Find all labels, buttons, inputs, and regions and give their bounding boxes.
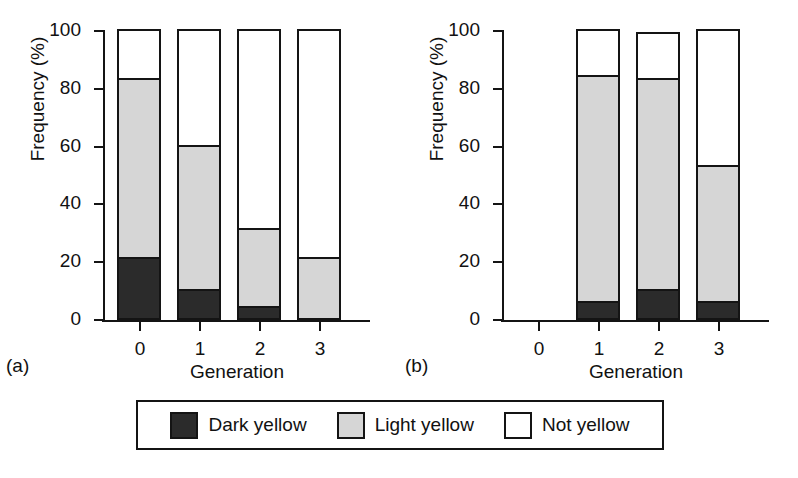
panel-a-y-tick-label: 0: [70, 308, 81, 330]
panel-b-x-tick-label: 3: [714, 338, 725, 360]
panel-a-y-tick: 20: [94, 261, 103, 263]
bar-segment-light-yellow: [297, 257, 341, 320]
panel-b-y-tick: 0: [493, 319, 502, 321]
bar-segment-light-yellow: [237, 228, 281, 308]
legend-swatch-light: [337, 412, 365, 439]
panel-b-y-axis-line: [502, 30, 504, 321]
panel-a-x-tick-label: 2: [255, 338, 266, 360]
panel-a-y-tick-label: 80: [60, 76, 81, 98]
legend-label: Light yellow: [375, 414, 474, 436]
panel-a-x-tick: [259, 322, 261, 331]
panel-b-y-tick: 20: [493, 261, 502, 263]
bar-generation-0: [117, 31, 161, 320]
panel-a-y-tick-label: 100: [49, 19, 81, 41]
panel-b-y-tick-label: 20: [459, 250, 480, 272]
bar-segment-dark-yellow: [237, 306, 281, 320]
panel-b-y-tick-label: 100: [448, 19, 480, 41]
panel-a-y-tick: 60: [94, 146, 103, 148]
legend-box: Dark yellowLight yellowNot yellow: [136, 400, 664, 450]
panel-a-x-tick: [319, 322, 321, 331]
panels-container: Frequency (%) 020406080100 0123 Generati…: [0, 0, 798, 392]
bar-generation-2: [237, 31, 281, 320]
bar-segment-dark-yellow: [177, 289, 221, 320]
legend-item: Light yellow: [337, 412, 474, 439]
panel-a-y-tick: 100: [94, 30, 103, 32]
panel-b-x-axis-label: Generation: [502, 361, 770, 383]
panel-b-y-tick-label: 60: [459, 134, 480, 156]
bar-segment-not-yellow: [576, 29, 620, 77]
panel-b-x-tick-label: 0: [534, 338, 545, 360]
bar-segment-not-yellow: [177, 29, 221, 147]
panel-a-y-tick-label: 20: [60, 250, 81, 272]
legend-item: Not yellow: [504, 412, 630, 439]
panel-b-y-tick: 40: [493, 203, 502, 205]
panel-a-tag: (a): [6, 355, 29, 377]
bar-generation-3: [696, 31, 740, 320]
bar-segment-dark-yellow: [117, 257, 161, 320]
bar-generation-3: [297, 31, 341, 320]
panel-a-y-tick-label: 60: [60, 134, 81, 156]
panel-b-x-tick: [598, 322, 600, 331]
panel-b-y-tick: 80: [493, 88, 502, 90]
panel-a-x-tick-label: 1: [195, 338, 206, 360]
bar-segment-light-yellow: [636, 78, 680, 291]
legend-label: Dark yellow: [208, 414, 306, 436]
legend-swatch-dark: [170, 412, 198, 439]
panel-b-y-tick-label: 80: [459, 76, 480, 98]
bar-segment-dark-yellow: [576, 301, 620, 320]
bar-generation-1: [576, 31, 620, 320]
bar-segment-light-yellow: [696, 165, 740, 303]
panel-a-y-tick: 0: [94, 319, 103, 321]
panel-a-x-axis-label: Generation: [103, 361, 371, 383]
panel-b-y-tick: 100: [493, 30, 502, 32]
bar-segment-not-yellow: [117, 29, 161, 80]
panel-a-x-tick: [199, 322, 201, 331]
bar-segment-not-yellow: [636, 32, 680, 80]
bar-segment-light-yellow: [576, 75, 620, 302]
legend-label: Not yellow: [542, 414, 630, 436]
legend-swatch-none: [504, 412, 532, 439]
bar-generation-2: [636, 34, 680, 320]
bar-generation-1: [177, 31, 221, 320]
panel-b-y-tick-label: 40: [459, 192, 480, 214]
stacked-bar-figure: Frequency (%) 020406080100 0123 Generati…: [0, 0, 798, 478]
panel-a: Frequency (%) 020406080100 0123 Generati…: [0, 0, 399, 392]
panel-b-x-tick: [658, 322, 660, 331]
bar-segment-dark-yellow: [636, 289, 680, 320]
panel-b-x-tick-label: 2: [654, 338, 665, 360]
panel-a-y-axis-line: [103, 30, 105, 321]
panel-a-x-tick: [139, 322, 141, 331]
panel-b-y-axis-label: Frequency (%): [426, 0, 448, 199]
bar-segment-not-yellow: [696, 29, 740, 167]
panel-b: Frequency (%) 020406080100 0123 Generati…: [399, 0, 798, 392]
bar-segment-light-yellow: [117, 78, 161, 259]
panel-b-x-tick: [538, 322, 540, 331]
panel-a-x-axis-line: [102, 320, 370, 322]
legend-item: Dark yellow: [170, 412, 306, 439]
panel-b-tag: (b): [405, 355, 428, 377]
panel-b-x-tick-label: 1: [594, 338, 605, 360]
panel-a-plot-area: 020406080100 0123 Generation: [103, 31, 353, 320]
panel-b-x-axis-line: [501, 320, 769, 322]
panel-b-y-tick-label: 0: [469, 308, 480, 330]
panel-b-x-tick: [718, 322, 720, 331]
bar-segment-not-yellow: [237, 29, 281, 230]
bar-segment-not-yellow: [297, 29, 341, 259]
panel-a-y-axis-label: Frequency (%): [27, 0, 49, 199]
bar-segment-dark-yellow: [696, 301, 740, 320]
panel-b-y-tick: 60: [493, 146, 502, 148]
bar-segment-light-yellow: [177, 145, 221, 292]
panel-a-y-tick: 40: [94, 203, 103, 205]
panel-b-plot-area: 020406080100 0123 Generation: [502, 31, 752, 320]
panel-a-y-tick-label: 40: [60, 192, 81, 214]
panel-a-x-tick-label: 0: [135, 338, 146, 360]
panel-a-y-tick: 80: [94, 88, 103, 90]
panel-a-x-tick-label: 3: [315, 338, 326, 360]
